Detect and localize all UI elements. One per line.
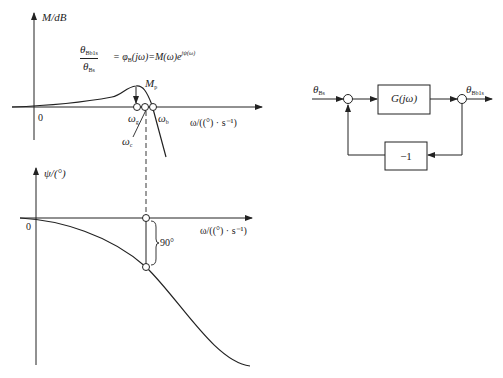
magnitude-origin-label: 0 [38, 113, 43, 123]
phase-origin-label: 0 [26, 222, 31, 232]
omega-b-symbol: ω [158, 112, 166, 124]
mp-symbol: M [145, 77, 154, 89]
magnitude-curve [12, 86, 166, 157]
omega-g-label: ωg [128, 113, 139, 125]
phase-x-axis-label: ω/((°) · s⁻¹) [200, 226, 247, 236]
omega-b-subscript: b [166, 119, 169, 125]
equation-rhs-superscript: jψ(ω) [182, 50, 196, 56]
phase-y-axis-label: ψ/(°) [44, 168, 66, 179]
equation-rhs-part1: = φ [113, 51, 128, 62]
omega-g-symbol: ω [128, 112, 136, 124]
magnitude-x-axis-label: ω/((°) · s⁻¹) [190, 118, 237, 128]
omega-c-marker [142, 104, 149, 111]
omega-b-marker [150, 104, 157, 111]
phase-plot [20, 168, 252, 366]
phase-margin-label: 90° [160, 238, 174, 248]
feedback-path-in [428, 104, 462, 155]
output-label: θBb1s [466, 84, 484, 96]
omega-g-marker [134, 104, 141, 111]
numerator-subscript: Bb1s [85, 50, 97, 56]
feedback-block-label: −1 [385, 151, 427, 162]
omega-c-subscript: c [130, 142, 133, 148]
output-subscript: Bb1s [471, 90, 483, 96]
magnitude-y-axis-label: M/dB [42, 12, 66, 23]
equation-denominator: θBs [80, 60, 98, 74]
input-summing-junction [344, 95, 353, 104]
mp-subscript: p [154, 84, 157, 90]
g-block-label: G(jω) [378, 93, 430, 104]
equation-numerator: θBb1s [80, 43, 98, 57]
omega-c-symbol: ω [122, 135, 130, 147]
phase-crossover-marker [143, 215, 150, 222]
equation-rhs-part2: (jω)=M(ω)e [132, 51, 182, 62]
denominator-subscript: Bs [88, 67, 94, 73]
input-subscript: Bs [318, 90, 324, 96]
input-label: θBs [313, 84, 325, 96]
phase-curve [20, 218, 250, 366]
magnitude-plot [12, 13, 262, 157]
diagram-canvas [0, 0, 503, 378]
phase-value-marker [143, 264, 150, 271]
omega-c-label: ωc [122, 136, 132, 148]
fraction-bar [80, 58, 98, 59]
phase-margin-brace [151, 221, 159, 265]
omega-g-subscript: g [136, 119, 139, 125]
mp-label: Mp [145, 78, 157, 90]
equation-rhs: = φB(jω)=M(ω)ejψ(ω) [113, 50, 195, 63]
omega-b-label: ωb [158, 113, 169, 125]
equation-fraction: θBb1s θBs [80, 43, 98, 73]
magnitude-y-axis-label-text: M/dB [42, 11, 66, 23]
